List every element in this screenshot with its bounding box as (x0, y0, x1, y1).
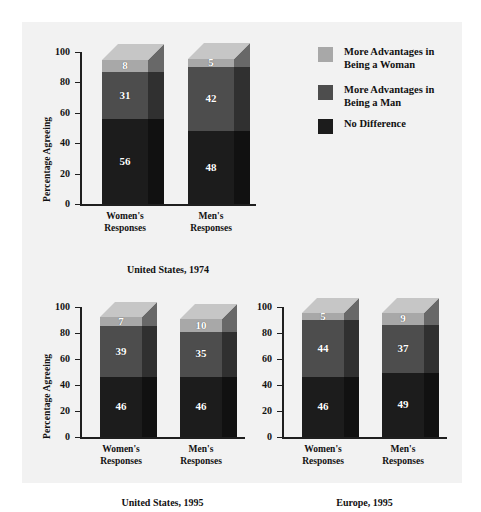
y-axis-tick-label: 40 (236, 379, 272, 390)
y-axis-tick-label: 0 (34, 431, 70, 442)
bar-value-label: 31 (102, 90, 148, 101)
bar-value-label: 10 (180, 320, 222, 331)
bar-group[interactable]: 46445 (302, 307, 344, 437)
y-axis-title: Percentage Agreeing (42, 354, 52, 439)
y-axis-tick (75, 411, 80, 412)
y-axis-tick-label: 20 (236, 405, 272, 416)
legend-more-advantages-man[interactable]: More Advantages in Being a Man (318, 84, 434, 110)
chart-legend: More Advantages in Being a WomanMore Adv… (318, 46, 468, 146)
legend-label: More Advantages in Being a Woman (344, 46, 434, 72)
bar-value-label: 46 (180, 401, 222, 412)
legend-label: No Difference (344, 118, 406, 131)
bar-value-label: 35 (180, 348, 222, 359)
y-axis-line (80, 307, 82, 438)
y-axis-tick-label: 80 (34, 76, 70, 87)
legend-more-advantages-woman[interactable]: More Advantages in Being a Woman (318, 46, 434, 72)
plot-area: 02040608010046397Women's Responses463510… (80, 307, 230, 437)
plot-area: 02040608010056318Women's Responses48425M… (80, 52, 240, 204)
bar-value-label: 39 (100, 346, 142, 357)
chart-caption: United States, 1974 (70, 264, 266, 275)
x-axis-category-label: Women's Responses (80, 444, 162, 468)
y-axis-tick-label: 100 (34, 301, 70, 312)
y-axis-tick (277, 307, 282, 308)
y-axis-tick-label: 0 (236, 431, 272, 442)
y-axis-tick (75, 143, 80, 144)
bar-value-label: 9 (382, 313, 424, 324)
y-axis-tick-label: 60 (34, 107, 70, 118)
y-axis-tick (277, 333, 282, 334)
legend-color-swatch (318, 47, 333, 62)
bar-group[interactable]: 463510 (180, 307, 222, 437)
y-axis-tick (75, 174, 80, 175)
bar-value-label: 46 (100, 401, 142, 412)
bar-group[interactable]: 46397 (100, 307, 142, 437)
y-axis-tick (75, 113, 80, 114)
legend-no-difference[interactable]: No Difference (318, 118, 406, 134)
x-axis-line (282, 437, 447, 439)
y-axis-tick-label: 60 (236, 353, 272, 364)
y-axis-tick-label: 100 (34, 46, 70, 57)
bar-value-label: 7 (100, 316, 142, 327)
x-axis-category-label: Men's Responses (362, 444, 444, 468)
chart-caption: United States, 1995 (70, 497, 255, 508)
y-axis-tick-label: 40 (34, 137, 70, 148)
x-axis-line (80, 437, 245, 439)
legend-label: More Advantages in Being a Man (344, 84, 434, 110)
y-axis-tick (75, 52, 80, 53)
x-axis-line (80, 204, 256, 206)
x-axis-category-label: Women's Responses (82, 211, 168, 235)
y-axis-tick-label: 80 (236, 327, 272, 338)
chart-europe-1995: 02040608010046445Women's Responses49379M… (282, 307, 481, 512)
legend-color-swatch (318, 85, 333, 100)
bar-group[interactable]: 48425 (188, 52, 234, 204)
y-axis-tick (75, 359, 80, 360)
y-axis-tick-label: 20 (34, 168, 70, 179)
chart-caption: Europe, 1995 (272, 497, 457, 508)
bar-value-label: 44 (302, 343, 344, 354)
y-axis-tick-label: 100 (236, 301, 272, 312)
bar-value-label: 37 (382, 343, 424, 354)
y-axis-tick-label: 40 (34, 379, 70, 390)
y-axis-tick (277, 385, 282, 386)
bar-value-label: 8 (102, 60, 148, 71)
y-axis-tick (75, 385, 80, 386)
y-axis-line (80, 52, 82, 205)
y-axis-tick (75, 82, 80, 83)
y-axis-tick (277, 359, 282, 360)
y-axis-tick-label: 80 (34, 327, 70, 338)
bar-group[interactable]: 56318 (102, 52, 148, 204)
bar-value-label: 48 (188, 162, 234, 173)
chart-united-states-1974: 02040608010056318Women's Responses48425M… (80, 52, 300, 284)
y-axis-title: Percentage Agreeing (42, 117, 52, 202)
y-axis-tick (277, 437, 282, 438)
y-axis-tick (75, 204, 80, 205)
x-axis-category-label: Men's Responses (168, 211, 254, 235)
y-axis-line (282, 307, 284, 438)
plot-area: 02040608010046445Women's Responses49379M… (282, 307, 432, 437)
y-axis-tick (277, 411, 282, 412)
y-axis-tick (75, 437, 80, 438)
bar-value-label: 42 (188, 93, 234, 104)
legend-color-swatch (318, 119, 333, 134)
y-axis-tick-label: 60 (34, 353, 70, 364)
y-axis-tick (75, 307, 80, 308)
y-axis-tick-label: 0 (34, 198, 70, 209)
bar-value-label: 56 (102, 156, 148, 167)
bar-value-label: 49 (382, 399, 424, 410)
bar-group[interactable]: 49379 (382, 307, 424, 437)
x-axis-category-label: Women's Responses (282, 444, 364, 468)
y-axis-tick-label: 20 (34, 405, 70, 416)
y-axis-tick (75, 333, 80, 334)
x-axis-category-label: Men's Responses (160, 444, 242, 468)
bar-value-label: 46 (302, 401, 344, 412)
